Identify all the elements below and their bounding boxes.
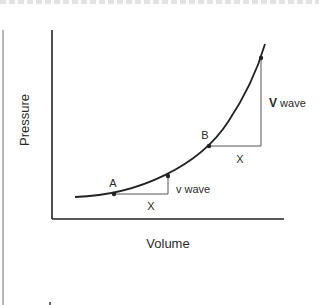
point-b-end-marker [259, 56, 263, 60]
large-v-wave-label: V wave [269, 96, 306, 110]
delta-x-label-lower: X [147, 200, 155, 212]
point-a-label: A [109, 177, 117, 189]
large-v-bold: V [269, 96, 277, 110]
large-wave-text: wave [277, 97, 306, 109]
pressure-volume-curve [75, 44, 265, 197]
pressure-volume-diagram: A B X X v wave V wave Volume Pressure [0, 0, 319, 305]
point-b-label: B [201, 129, 208, 141]
diagram-frame: A B X X v wave V wave Volume Pressure [0, 0, 319, 305]
point-b-marker [207, 144, 211, 148]
point-a-end-marker [166, 174, 170, 178]
x-axis-label: Volume [146, 236, 189, 251]
point-a-marker [112, 192, 116, 196]
y-axis-label: Pressure [17, 94, 32, 146]
small-v-wave-label: v wave [176, 183, 210, 195]
delta-x-label-upper: X [236, 153, 244, 165]
